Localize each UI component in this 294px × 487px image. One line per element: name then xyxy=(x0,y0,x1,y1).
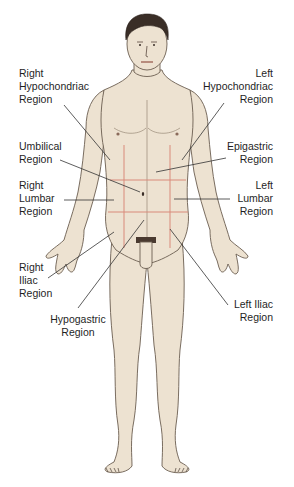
label-text: Left xyxy=(237,179,273,192)
label-text: Lumbar xyxy=(19,192,55,205)
label-umbilical: Umbilical Region xyxy=(19,140,62,166)
label-text: Region xyxy=(19,287,52,300)
label-text: Right xyxy=(19,179,55,192)
right-arm xyxy=(46,90,106,274)
label-text: Hypogastric xyxy=(43,313,113,326)
label-text: Region xyxy=(203,93,273,106)
label-text: Left Iliac xyxy=(234,298,273,311)
label-left-hypochondriac: Left Hypochondriac Region xyxy=(203,67,273,106)
label-text: Hypochondriac xyxy=(19,80,89,93)
label-text: Left xyxy=(203,67,273,80)
label-text: Region xyxy=(19,153,62,166)
label-text: Region xyxy=(19,205,55,218)
right-leg xyxy=(105,238,147,473)
label-left-lumbar: Left Lumbar Region xyxy=(237,179,273,218)
label-hypogastric: Hypogastric Region xyxy=(43,313,113,339)
label-text: Epigastric xyxy=(227,140,273,153)
label-text: Region xyxy=(237,205,273,218)
label-text: Right xyxy=(19,261,52,274)
label-text: Hypochondriac xyxy=(203,80,273,93)
label-right-lumbar: Right Lumbar Region xyxy=(19,179,55,218)
label-text: Region xyxy=(19,93,89,106)
label-right-hypochondriac: Right Hypochondriac Region xyxy=(19,67,89,106)
label-text: Lumbar xyxy=(237,192,273,205)
label-text: Iliac xyxy=(19,274,52,287)
label-text: Right xyxy=(19,67,89,80)
left-leg xyxy=(147,238,189,473)
label-text: Umbilical xyxy=(19,140,62,153)
label-text: Region xyxy=(227,153,273,166)
label-epigastric: Epigastric Region xyxy=(227,140,273,166)
label-left-iliac: Left Iliac Region xyxy=(234,298,273,324)
label-text: Region xyxy=(43,326,113,339)
label-right-iliac: Right Iliac Region xyxy=(19,261,52,300)
label-text: Region xyxy=(234,311,273,324)
